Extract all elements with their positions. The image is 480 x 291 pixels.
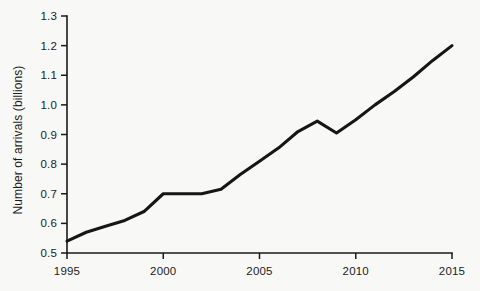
- y-tick-label: 0.6: [40, 217, 57, 229]
- y-tick-label: 1.2: [40, 40, 57, 52]
- y-axis-ticks: [61, 16, 67, 253]
- x-axis-tick-labels: 19952000200520102015: [54, 265, 465, 277]
- y-axis-title: Number of arrivals (billions): [11, 66, 25, 215]
- chart-canvas: 0.50.60.70.80.91.01.11.21.3 199520002005…: [0, 0, 480, 291]
- x-tick-label: 2000: [150, 265, 176, 277]
- x-tick-label: 2010: [343, 265, 369, 277]
- x-axis-ticks: [67, 253, 452, 259]
- y-tick-label: 1.3: [40, 10, 57, 22]
- data-series-line: [67, 46, 452, 242]
- x-tick-label: 1995: [54, 265, 80, 277]
- x-tick-label: 2005: [246, 265, 272, 277]
- y-tick-label: 0.5: [40, 247, 57, 259]
- y-tick-label: 0.9: [40, 129, 57, 141]
- line-chart: 0.50.60.70.80.91.01.11.21.3 199520002005…: [0, 0, 480, 291]
- x-tick-label: 2015: [439, 265, 465, 277]
- y-tick-label: 1.0: [40, 99, 57, 111]
- y-tick-label: 0.8: [40, 158, 57, 170]
- y-tick-label: 0.7: [40, 188, 57, 200]
- y-axis-tick-labels: 0.50.60.70.80.91.01.11.21.3: [40, 10, 57, 259]
- y-tick-label: 1.1: [40, 69, 57, 81]
